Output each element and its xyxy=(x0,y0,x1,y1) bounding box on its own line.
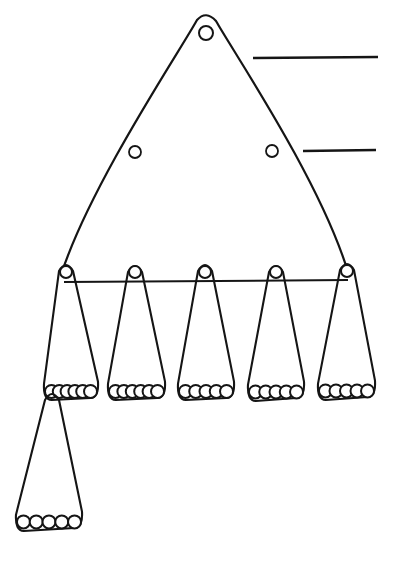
right-side-circle-hole xyxy=(266,145,278,157)
triangle-4-outline xyxy=(248,266,304,401)
triangle-3-outline xyxy=(178,265,234,400)
rule-top xyxy=(253,57,378,58)
left-side-circle-hole xyxy=(129,146,141,158)
triangle-5-outline xyxy=(318,264,375,400)
triangle-6-base-circle xyxy=(30,515,43,528)
triangle-3-base-circle xyxy=(220,385,233,398)
triangle-6-base-circle xyxy=(55,515,68,528)
apex-crossbar xyxy=(64,280,348,282)
triangle-5-base-circle xyxy=(361,384,374,397)
triangle-2-outline xyxy=(108,266,165,400)
triangle-6-base-circle xyxy=(68,515,81,528)
triangle-4-apex-hole xyxy=(270,266,282,278)
large-triangle-outline xyxy=(62,15,348,272)
triangle-3-apex-hole xyxy=(199,266,211,278)
large-triangle-apex-hole xyxy=(199,26,213,40)
triangle-4-base-circle xyxy=(290,385,303,398)
triangle-1-base-circle xyxy=(84,385,97,398)
triangle-2 xyxy=(108,266,165,400)
triangle-1 xyxy=(44,265,98,400)
triangle-6 xyxy=(16,394,82,531)
triangle-1-apex-hole xyxy=(60,266,72,278)
triangle-4 xyxy=(248,266,304,401)
diagram-svg xyxy=(0,0,397,564)
triangle-3 xyxy=(178,265,234,400)
triangle-1-outline xyxy=(44,265,98,400)
triangle-2-base-circle xyxy=(151,385,164,398)
triangle-5-apex-hole xyxy=(341,265,353,277)
triangle-6-base-circle xyxy=(17,515,30,528)
diagram-root xyxy=(16,15,378,531)
triangle-5 xyxy=(318,264,375,400)
triangle-6-outline xyxy=(16,394,82,531)
triangle-6-base-circle xyxy=(43,515,56,528)
triangle-2-apex-hole xyxy=(129,266,141,278)
figure-canvas xyxy=(0,0,397,564)
rule-bottom xyxy=(303,150,376,151)
